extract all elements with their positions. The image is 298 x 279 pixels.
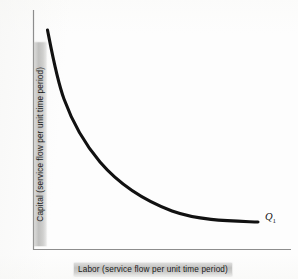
figure-container: Capital (service flow per unit time peri… xyxy=(0,0,298,279)
y-axis-label: Capital (service flow per unit time peri… xyxy=(34,42,47,246)
curve-label-subscript: 1 xyxy=(273,217,277,225)
x-axis-label: Labor (service flow per unit time period… xyxy=(74,263,232,276)
curve-label-letter: Q xyxy=(265,211,273,222)
isoquant-curve-q1 xyxy=(48,30,259,222)
curve-label-q1: Q1 xyxy=(265,211,276,225)
